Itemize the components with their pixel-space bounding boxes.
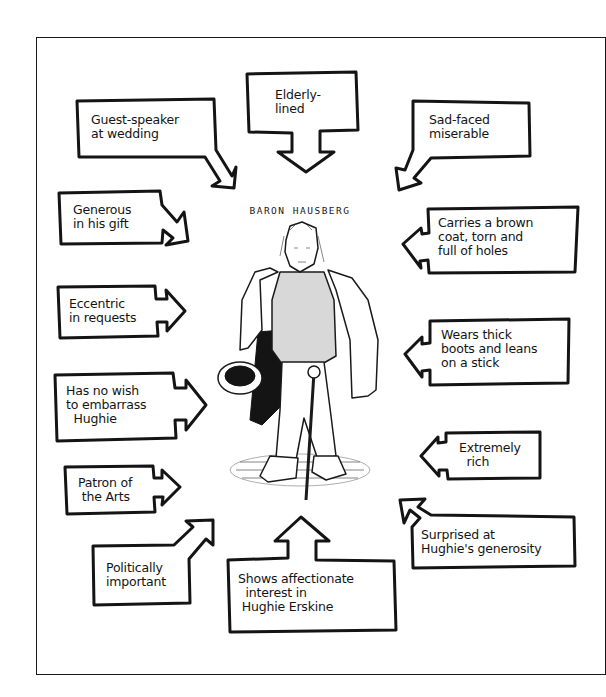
trait-shows-affection: Shows affectionate interest in Hughie Er… <box>238 572 354 614</box>
sweater <box>272 272 336 364</box>
trait-surprised: Surprised at Hughie's generosity <box>421 528 542 556</box>
head <box>285 222 318 272</box>
trait-patron: Patron of the Arts <box>78 476 132 504</box>
trait-carries-coat: Carries a brown coat, torn and full of h… <box>438 216 533 258</box>
left-boot <box>260 456 298 482</box>
baron-figure <box>218 222 378 500</box>
trait-sad-faced: Sad-faced miserable <box>429 113 490 141</box>
trait-eccentric: Eccentric in requests <box>69 297 136 325</box>
trait-extremely-rich: Extremely rich <box>459 441 521 469</box>
trait-politically: Politically important <box>106 561 166 589</box>
trait-guest-speaker: Guest-speaker at wedding <box>91 113 179 141</box>
trait-no-wish: Has no wish to embarrass Hughie <box>66 384 146 426</box>
trait-elderly: Elderly- lined <box>275 88 321 116</box>
trait-generous: Generous in his gift <box>73 203 131 231</box>
trousers <box>276 362 336 460</box>
right-boot <box>312 456 346 480</box>
trait-wears-boots: Wears thick boots and leans on a stick <box>441 328 537 370</box>
